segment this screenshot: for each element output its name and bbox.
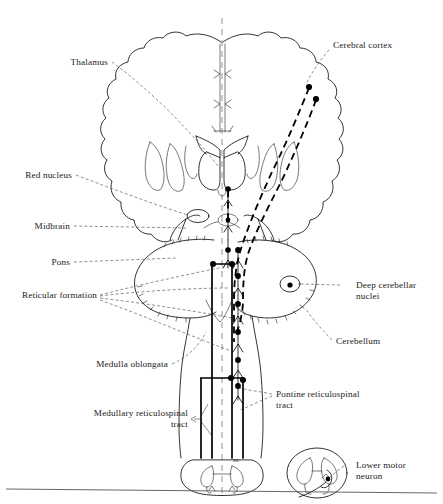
label-medullary-tract-line1: Medullary reticulospinal (94, 408, 188, 418)
red-nucleus-body (187, 210, 209, 223)
label-deep-cerebellar-line1: Deep cerebellar (356, 280, 416, 290)
bottom-rule (6, 489, 437, 493)
label-reticular-formation: Reticular formation (22, 290, 97, 300)
label-midbrain: Midbrain (35, 221, 71, 231)
label-medulla-oblongata: Medulla oblongata (96, 359, 168, 369)
pons-body (134, 236, 216, 322)
anatomy-figure: me (0, 0, 443, 504)
label-medullary-tract-line2: tract (171, 419, 188, 429)
label-lower-motor-line2: neuron (356, 471, 383, 481)
label-pontine-tract-line1: Pontine reticulospinal (276, 389, 360, 399)
spinal-cord-inset-cross-section (287, 448, 347, 498)
medulla-body (179, 316, 263, 458)
label-deep-cerebellar-line2: nuclei (356, 291, 380, 301)
spinal-marker-label: me (233, 457, 240, 463)
figure-page: me (0, 0, 443, 504)
label-pontine-tract-line2: tract (276, 400, 293, 410)
label-cerebral-cortex: Cerebral cortex (333, 40, 392, 50)
label-cerebellum: Cerebellum (336, 336, 380, 346)
label-pons: Pons (52, 257, 71, 267)
label-red-nucleus: Red nucleus (25, 170, 72, 180)
cerebellum-body (236, 236, 316, 324)
label-group: Thalamus Red nucleus Midbrain Pons Retic… (22, 40, 416, 481)
pontine-reticulospinal-tract (210, 261, 235, 458)
label-thalamus: Thalamus (71, 57, 109, 67)
medulla-internal-detail (206, 300, 232, 322)
reticular-formation-neurons (223, 247, 243, 404)
label-lower-motor-line1: Lower motor (356, 460, 406, 470)
